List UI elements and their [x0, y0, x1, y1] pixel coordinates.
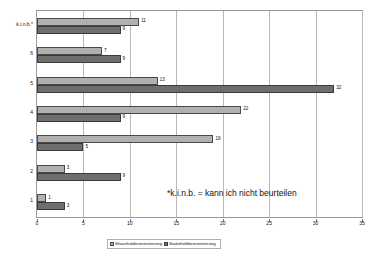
- x-axis-tick-label: 35: [359, 221, 365, 226]
- legend-label: Shareholderorientierung: [115, 242, 162, 246]
- bar[interactable]: [37, 135, 213, 143]
- category-band: 1332: [37, 70, 362, 99]
- bar-value-label: 5: [85, 145, 88, 150]
- y-axis-tick-label: 2: [30, 169, 33, 174]
- bar-value-label: 7: [104, 49, 107, 54]
- category-band: 79: [37, 40, 362, 69]
- bar-chart: 1339195229133279119 123456k.i.n.b.* 0510…: [0, 0, 378, 255]
- y-axis-tick-label: 6: [30, 51, 33, 56]
- bar[interactable]: [37, 202, 65, 210]
- bar-value-label: 9: [123, 57, 126, 62]
- x-axis-ticks: 05101520253035: [36, 219, 363, 231]
- y-axis-tick-label: 4: [30, 110, 33, 115]
- legend-swatch-icon: [110, 242, 114, 246]
- bar-value-label: 13: [160, 78, 165, 83]
- y-axis-ticks: 123456k.i.n.b.*: [0, 10, 33, 218]
- bar-value-label: 19: [215, 137, 220, 142]
- y-axis-tick-label: 1: [30, 198, 33, 203]
- bar[interactable]: [37, 77, 158, 85]
- y-axis-tick-label: k.i.n.b.*: [16, 22, 33, 27]
- x-axis-tick-label: 25: [266, 221, 272, 226]
- gridline: [362, 11, 363, 217]
- bar-value-label: 32: [336, 86, 341, 91]
- bar-value-label: 22: [243, 107, 248, 112]
- x-axis-tick-label: 5: [82, 221, 85, 226]
- bar-value-label: 9: [123, 27, 126, 32]
- category-band: 39: [37, 158, 362, 187]
- category-band: 229: [37, 99, 362, 128]
- bar[interactable]: [37, 173, 121, 181]
- bar[interactable]: [37, 18, 139, 26]
- legend-label: Stakeholderorientierung: [169, 242, 216, 246]
- footnote-annotation: *k.i.n.b. = kann ich nicht beurteilen: [167, 188, 297, 198]
- x-axis-tick-label: 30: [313, 221, 319, 226]
- bar[interactable]: [37, 55, 121, 63]
- bar[interactable]: [37, 26, 121, 34]
- bar[interactable]: [37, 114, 121, 122]
- bar-value-label: 9: [123, 115, 126, 120]
- legend-swatch-icon: [164, 242, 168, 246]
- bar[interactable]: [37, 85, 334, 93]
- legend-item-shareholderorientierung[interactable]: Shareholderorientierung: [110, 242, 162, 246]
- y-axis-tick-label: 3: [30, 139, 33, 144]
- bar[interactable]: [37, 194, 46, 202]
- bar[interactable]: [37, 165, 65, 173]
- bar-value-label: 9: [123, 174, 126, 179]
- bar-value-label: 3: [67, 204, 70, 209]
- bar-value-label: 3: [67, 166, 70, 171]
- y-axis-tick-label: 5: [30, 81, 33, 86]
- category-band: 119: [37, 11, 362, 40]
- category-band: 195: [37, 129, 362, 158]
- bar[interactable]: [37, 143, 83, 151]
- bar[interactable]: [37, 106, 241, 114]
- x-axis-tick-label: 0: [36, 221, 39, 226]
- x-axis-tick-label: 20: [220, 221, 226, 226]
- chart-legend: Shareholderorientierung Stakeholderorien…: [107, 239, 221, 249]
- bar-value-label: 1: [48, 196, 51, 201]
- legend-item-stakeholderorientierung[interactable]: Stakeholderorientierung: [164, 242, 216, 246]
- bar[interactable]: [37, 47, 102, 55]
- x-axis-tick-label: 10: [127, 221, 133, 226]
- x-axis-tick-label: 15: [174, 221, 180, 226]
- bar-value-label: 11: [141, 19, 146, 24]
- plot-area: 1339195229133279119: [36, 10, 363, 218]
